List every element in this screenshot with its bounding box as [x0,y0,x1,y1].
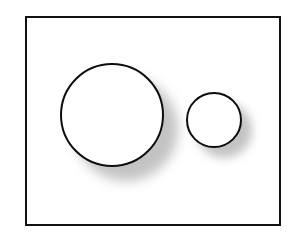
figure-canvas [0,0,298,239]
small-circle[interactable] [186,92,242,148]
large-circle[interactable] [60,63,164,167]
outer-rectangle-border [25,16,281,226]
shape-stage [27,18,279,224]
